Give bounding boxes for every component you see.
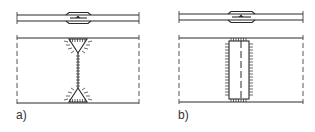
panel-b-section-view	[179, 11, 303, 23]
panel-a-label: a)	[16, 108, 27, 122]
panel-a-plan-view	[17, 35, 139, 106]
panel-b	[179, 11, 303, 105]
weld-diagram	[0, 0, 315, 132]
panel-a	[17, 12, 139, 106]
panel-b-label: b)	[178, 108, 189, 122]
panel-a-section-view	[17, 12, 139, 24]
panel-b-plan-view	[179, 35, 303, 105]
